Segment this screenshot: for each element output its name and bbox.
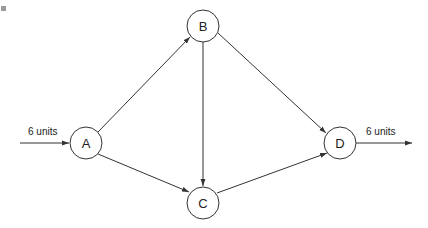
node-d-label: D (335, 136, 344, 151)
edge-c-d (217, 153, 327, 193)
edge-a-c (98, 154, 189, 192)
inflow-label: 6 units (28, 126, 57, 137)
outflow-label: 6 units (366, 126, 395, 137)
node-b: B (187, 10, 219, 42)
outflow-arrow: 6 units (356, 126, 412, 143)
node-c: C (187, 187, 219, 219)
edge-b-d (218, 33, 326, 133)
node-a-label: A (82, 136, 91, 151)
node-a: A (70, 127, 102, 159)
node-c-label: C (198, 196, 207, 211)
node-b-label: B (199, 19, 208, 34)
node-d: D (324, 127, 356, 159)
edge-a-b (98, 37, 190, 132)
flow-network-diagram: 6 units 6 units A B C D (0, 0, 428, 228)
inflow-arrow: 6 units (20, 126, 69, 143)
